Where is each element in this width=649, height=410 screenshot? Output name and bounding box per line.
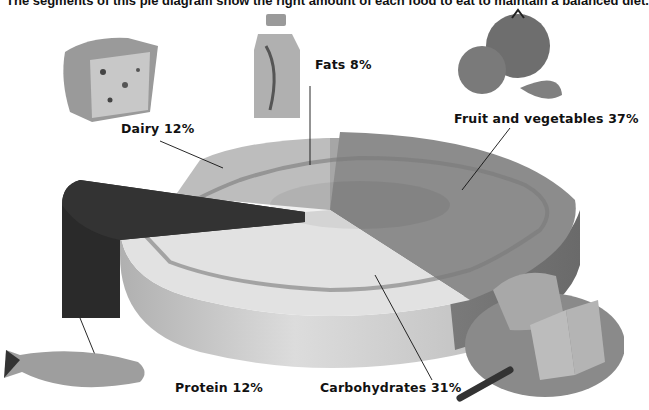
label-fats: Fats 8% [315, 57, 372, 72]
oil-bottle-image [254, 14, 300, 118]
cheese-image [63, 38, 158, 122]
label-fruit-vegetables: Fruit and vegetables 37% [454, 111, 639, 126]
label-carbohydrates: Carbohydrates 31% [320, 380, 461, 395]
tomatoes-image [458, 10, 562, 99]
label-protein: Protein 12% [175, 380, 263, 395]
fish-image [4, 350, 145, 387]
label-dairy: Dairy 12% [121, 121, 194, 136]
